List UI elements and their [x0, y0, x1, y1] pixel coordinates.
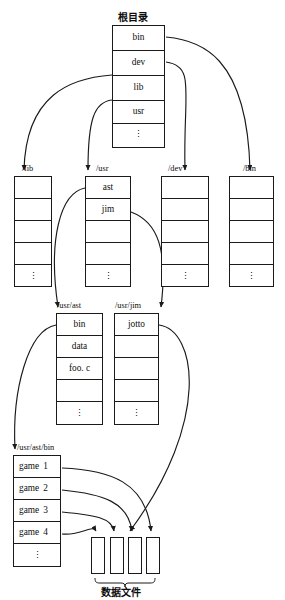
label-bin: /bin	[243, 164, 256, 173]
dirbox-lib: ⋮	[14, 176, 52, 287]
edge-root-usr	[88, 100, 112, 170]
label-usr-ast-bin: /usr/ast/bin	[17, 443, 54, 452]
label-usr-jim: /usr/jim	[115, 301, 141, 310]
dirbox-root: bin dev lib usr ⋮	[112, 25, 165, 148]
usr-ast-entry-0[interactable]: bin	[57, 314, 102, 336]
root-entry-2[interactable]: lib	[113, 76, 164, 101]
label-usr: /usr	[96, 164, 109, 173]
game-entry-2[interactable]: game 3	[14, 500, 60, 522]
usr-entry-4: ⋮	[86, 265, 130, 288]
datafile-2[interactable]	[110, 537, 124, 574]
dirbox-usr-ast-bin: game 1 game 2 game 3 game 4 ⋮	[13, 455, 61, 567]
edge-root-bin	[166, 37, 250, 170]
datafile-1[interactable]	[91, 537, 105, 574]
datafiles-caption: 数据文件	[101, 584, 141, 599]
label-lib: /lib	[22, 164, 33, 173]
lib-entry-0[interactable]	[15, 177, 51, 199]
dev-entry-4: ⋮	[162, 265, 208, 288]
label-dev: /dev	[168, 164, 182, 173]
edge-game2	[62, 490, 132, 531]
edge-usr-jim	[131, 212, 163, 307]
game-entry-4: ⋮	[14, 544, 60, 568]
game-entry-0[interactable]: game 1	[14, 456, 60, 478]
dev-entry-0[interactable]	[162, 177, 208, 199]
root-entry-1[interactable]: dev	[113, 51, 164, 76]
game-entry-1-name: game	[19, 484, 39, 493]
game-entry-2-name: game	[19, 506, 39, 515]
game-entry-1-number: 2	[43, 484, 48, 493]
label-usr-ast: /usr/ast	[57, 301, 81, 310]
root-entry-0[interactable]: bin	[113, 26, 164, 51]
dirbox-usr-ast: bin data foo. c ⋮	[56, 313, 103, 425]
game-entry-0-name: game	[19, 462, 39, 471]
dirbox-bin: ⋮	[229, 176, 274, 287]
root-title: 根目录	[118, 9, 148, 24]
usr-entry-0[interactable]: ast	[86, 177, 130, 199]
game-entry-0-number: 1	[43, 462, 48, 471]
root-entry-4: ⋮	[113, 124, 164, 146]
dev-entry-2[interactable]	[162, 221, 208, 243]
usr-ast-entry-1[interactable]: data	[57, 336, 102, 358]
directory-tree-diagram: 根目录 bin dev lib usr ⋮ /lib ⋮ /usr ast ji…	[0, 0, 285, 600]
edge-ast-bin	[15, 325, 56, 449]
usr-jim-entry-4: ⋮	[115, 402, 158, 426]
dirbox-usr-jim: jotto ⋮	[114, 313, 159, 425]
usr-entry-2[interactable]	[86, 221, 130, 243]
edge-game4	[62, 529, 96, 534]
usr-ast-entry-2[interactable]: foo. c	[57, 358, 102, 380]
bin-entry-2[interactable]	[230, 221, 273, 243]
usr-jim-entry-3[interactable]	[115, 380, 158, 402]
usr-entry-1[interactable]: jim	[86, 199, 130, 221]
game-entry-2-number: 3	[43, 506, 48, 515]
usr-ast-entry-4: ⋮	[57, 402, 102, 426]
bin-entry-1[interactable]	[230, 199, 273, 221]
dirbox-usr: ast jim ⋮	[85, 176, 131, 287]
usr-entry-3[interactable]	[86, 243, 130, 265]
edge-game3	[62, 512, 114, 531]
datafile-4[interactable]	[146, 537, 160, 574]
lib-entry-1[interactable]	[15, 199, 51, 221]
edge-root-lib	[24, 75, 112, 170]
datafile-3[interactable]	[128, 537, 142, 574]
lib-entry-2[interactable]	[15, 221, 51, 243]
dirbox-dev: ⋮	[161, 176, 209, 287]
edge-root-dev	[166, 62, 186, 170]
game-entry-3-name: game	[19, 528, 39, 537]
lib-entry-3[interactable]	[15, 243, 51, 265]
dev-entry-1[interactable]	[162, 199, 208, 221]
edge-game1	[62, 468, 151, 531]
game-entry-3[interactable]: game 4	[14, 522, 60, 544]
bin-entry-4: ⋮	[230, 265, 273, 288]
game-entry-3-number: 4	[43, 528, 48, 537]
lib-entry-4: ⋮	[15, 265, 51, 288]
root-entry-3[interactable]: usr	[113, 101, 164, 124]
usr-jim-entry-2[interactable]	[115, 358, 158, 380]
edge-usr-ast	[54, 188, 85, 307]
dev-entry-3[interactable]	[162, 243, 208, 265]
usr-ast-entry-3[interactable]	[57, 380, 102, 402]
bin-entry-3[interactable]	[230, 243, 273, 265]
game-entry-1[interactable]: game 2	[14, 478, 60, 500]
usr-jim-entry-0[interactable]: jotto	[115, 314, 158, 336]
bin-entry-0[interactable]	[230, 177, 273, 199]
usr-jim-entry-1[interactable]	[115, 336, 158, 358]
